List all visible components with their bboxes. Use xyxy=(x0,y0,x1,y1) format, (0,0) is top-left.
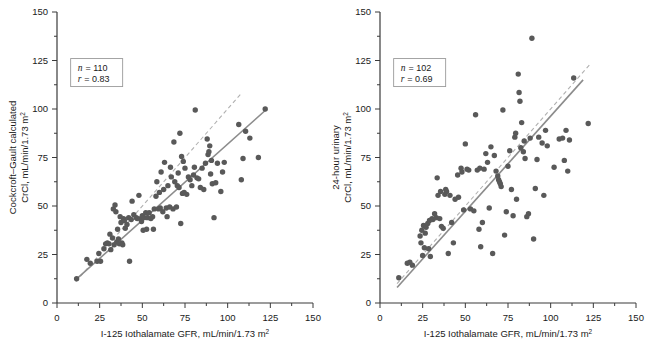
x-axis-title-main: I-125 Iothalamate GFR, mL/min/1.73 m xyxy=(424,328,589,339)
data-point xyxy=(206,149,211,154)
data-point xyxy=(562,158,567,163)
data-point xyxy=(509,187,514,192)
y-tick-label: 100 xyxy=(355,103,371,114)
data-point xyxy=(437,216,442,221)
data-point xyxy=(189,183,194,188)
stats-r-value: = 0.69 xyxy=(407,74,432,84)
x-axis-title-superscript: 2 xyxy=(589,328,593,335)
data-point xyxy=(536,134,541,139)
data-point xyxy=(184,192,189,197)
data-point xyxy=(222,160,227,165)
data-point xyxy=(178,221,183,226)
data-point xyxy=(463,141,468,146)
stats-r-value: = 0.83 xyxy=(84,74,109,84)
data-point xyxy=(505,164,510,169)
x-tick-label: 75 xyxy=(180,312,191,323)
y-axis-title-superscript: 2 xyxy=(342,112,349,116)
stats-n-line: n= 102 xyxy=(401,63,432,73)
y-tick-label: 0 xyxy=(366,297,371,308)
data-point xyxy=(168,165,173,170)
y-tick-label: 50 xyxy=(360,200,371,211)
data-point xyxy=(101,246,106,251)
data-point xyxy=(487,205,492,210)
data-point xyxy=(481,166,486,171)
data-point xyxy=(129,217,134,222)
y-axis-title-line1: 24-hour urinary xyxy=(330,125,341,190)
data-point xyxy=(516,71,521,76)
data-point xyxy=(417,233,422,238)
y-tick-label: 150 xyxy=(32,6,48,17)
data-point xyxy=(115,227,120,232)
data-point xyxy=(239,177,244,182)
data-point xyxy=(488,144,493,149)
data-point xyxy=(179,154,184,159)
x-axis-title-superscript: 2 xyxy=(266,328,270,335)
y-tick-label: 75 xyxy=(360,152,371,163)
y-tick-label: 125 xyxy=(32,55,48,66)
data-point xyxy=(204,136,209,141)
data-point xyxy=(466,167,471,172)
data-point xyxy=(539,140,544,145)
x-tick-label: 50 xyxy=(137,312,148,323)
data-point xyxy=(108,247,113,252)
data-point xyxy=(410,262,415,267)
data-point xyxy=(247,135,252,140)
data-point xyxy=(182,165,187,170)
data-point xyxy=(98,259,103,264)
data-point xyxy=(158,169,163,174)
y-axis-title-line2-main: CrCl, mL/min/1.73 m xyxy=(19,116,30,203)
data-point xyxy=(201,187,206,192)
x-tick-label: 25 xyxy=(94,312,105,323)
data-point xyxy=(120,242,125,247)
data-point xyxy=(543,128,548,133)
data-point xyxy=(150,214,155,219)
data-point xyxy=(175,170,180,175)
stats-n-symbol: n xyxy=(78,63,83,73)
data-point xyxy=(504,209,509,214)
data-point xyxy=(473,112,478,117)
two-panel-scatter-figure: 02550751001251500255075100125150I-125 Io… xyxy=(0,0,646,346)
data-point xyxy=(129,198,134,203)
data-point xyxy=(551,165,556,170)
data-point xyxy=(476,227,481,232)
stats-r-symbol: r xyxy=(78,74,82,84)
panel-left-plot: 02550751001251500255075100125150I-125 Io… xyxy=(7,6,321,339)
data-point xyxy=(560,135,565,140)
data-point xyxy=(493,168,498,173)
x-tick-label: 150 xyxy=(305,312,321,323)
data-point xyxy=(461,207,466,212)
x-axis-title-main: I-125 Iothalamate GFR, mL/min/1.73 m xyxy=(101,328,266,339)
data-point xyxy=(136,193,141,198)
y-tick-label: 100 xyxy=(32,103,48,114)
identity-reference-line xyxy=(397,64,590,283)
y-axis-title-superscript: 2 xyxy=(19,112,26,116)
x-tick-label: 25 xyxy=(417,312,428,323)
data-point xyxy=(434,175,439,180)
data-point xyxy=(478,244,483,249)
x-tick-label: 150 xyxy=(628,312,644,323)
data-point xyxy=(440,226,445,231)
panel-right-plot: 02550751001251500255075100125150I-125 Io… xyxy=(330,6,644,339)
data-point xyxy=(480,220,485,225)
data-point xyxy=(451,240,456,245)
data-point xyxy=(243,129,248,134)
data-point xyxy=(500,107,505,112)
data-point xyxy=(110,235,115,240)
data-point xyxy=(456,195,461,200)
data-point xyxy=(423,230,428,235)
y-tick-label: 125 xyxy=(355,55,371,66)
data-point xyxy=(545,143,550,148)
x-tick-label: 100 xyxy=(220,312,236,323)
data-point xyxy=(196,176,201,181)
data-point xyxy=(154,179,159,184)
data-point xyxy=(526,211,531,216)
data-point xyxy=(256,155,261,160)
x-tick-label: 125 xyxy=(262,312,278,323)
data-point xyxy=(459,169,464,174)
data-point xyxy=(213,180,218,185)
data-point xyxy=(533,186,538,191)
data-point xyxy=(181,159,186,164)
data-point xyxy=(567,137,572,142)
data-point xyxy=(113,209,118,214)
data-point xyxy=(211,215,216,220)
